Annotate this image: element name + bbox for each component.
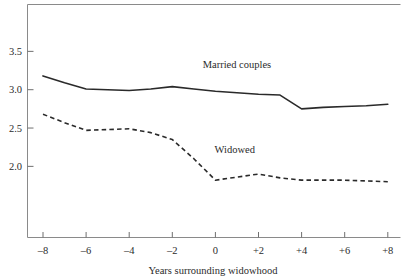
x-tick-label: 0 [213, 245, 218, 256]
y-tick-label: 3.0 [9, 84, 22, 95]
x-axis-title: Years surrounding widowhood [148, 265, 278, 276]
x-tick-label: +2 [253, 245, 264, 256]
x-tick-label: +8 [382, 245, 393, 256]
plot-frame [28, 5, 401, 238]
y-axis-ticks [28, 51, 34, 166]
y-tick-label: 2.0 [9, 161, 22, 172]
x-axis-ticks [43, 232, 388, 238]
series-inline-labels: Married couplesWidowed [203, 59, 272, 155]
y-tick-label: 3.5 [9, 46, 22, 57]
series-label-widowed: Widowed [215, 144, 256, 155]
x-tick-label: +6 [339, 245, 350, 256]
x-tick-label: –4 [123, 245, 135, 256]
chart-figure: Married couplesWidowed 3.53.02.52.0–8–6–… [0, 0, 409, 279]
x-tick-label: –6 [80, 245, 92, 256]
series-label-married-couples: Married couples [203, 59, 272, 70]
line-chart-canvas: Married couplesWidowed 3.53.02.52.0–8–6–… [0, 0, 409, 279]
x-tick-label: –8 [37, 245, 49, 256]
x-tick-label: +4 [296, 245, 308, 256]
series-line-married-couples [43, 76, 388, 109]
x-tick-label: –2 [166, 245, 178, 256]
tick-label-group: 3.53.02.52.0–8–6–4–20+2+4+6+8 [9, 46, 394, 256]
y-tick-label: 2.5 [9, 123, 22, 134]
data-series-group [43, 76, 388, 182]
